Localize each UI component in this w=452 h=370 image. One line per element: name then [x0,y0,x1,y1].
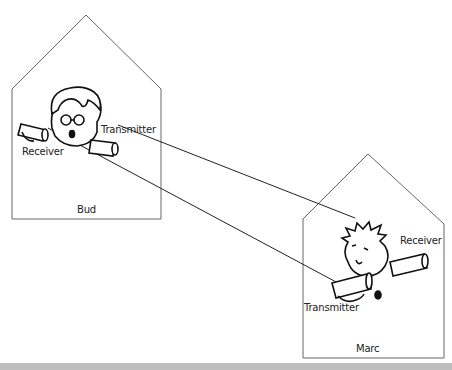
marc-receiver-label: Receiver [400,235,442,246]
marc-transmitter-label: Transmitter [304,302,359,313]
bud-transmitter-label: Transmitter [101,124,156,135]
marc-figure [332,222,428,301]
diagram-canvas [0,0,452,370]
string-bud-transmitter-to-marc-receiver [118,125,355,218]
bottom-bar [0,363,452,370]
bud-receiver-label: Receiver [22,146,64,157]
marc-name-label: Marc [356,343,379,354]
bud-name-label: Bud [77,204,96,215]
